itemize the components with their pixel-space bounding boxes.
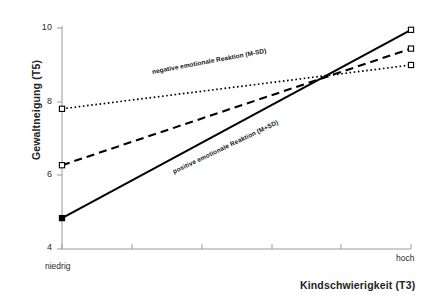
y-tick-label-10: 10: [30, 22, 52, 32]
data-marker: [59, 163, 64, 168]
series-mittlere-emotionale-reaktion: [59, 46, 413, 168]
data-marker: [408, 62, 413, 67]
y-tick-label-4: 4: [30, 242, 52, 252]
x-axis-title: Kindschwierigkeit (T3): [300, 279, 415, 291]
data-marker: [408, 27, 413, 32]
data-marker: [408, 46, 413, 51]
series-negative-emotionale-reaktion: [59, 62, 413, 111]
x-tick-label-niedrig: niedrig: [45, 261, 71, 271]
data-marker: [59, 216, 64, 221]
y-tick-label-6: 6: [30, 169, 52, 179]
y-axis-title: Gewaltneigung (T5): [30, 30, 42, 190]
data-marker: [59, 106, 64, 111]
x-tick-label-hoch: hoch: [396, 253, 414, 263]
chart-figure: Gewaltneigung (T5) Kindschwierigkeit (T3…: [0, 0, 432, 306]
y-tick-label-8: 8: [30, 96, 52, 106]
x-axis-ticks: [62, 244, 411, 249]
